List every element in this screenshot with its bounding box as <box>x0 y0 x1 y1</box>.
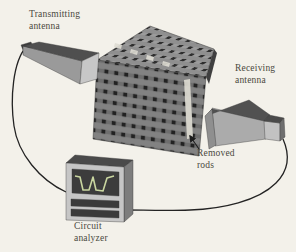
receiving-antenna-label: Receiving antenna <box>235 63 275 86</box>
woodpile-lattice-icon <box>93 26 217 156</box>
receiving-horn-antenna-icon <box>205 100 285 149</box>
removed-rods-label: Removed rods <box>197 148 235 171</box>
transmitting-horn-antenna-icon <box>21 42 99 84</box>
experiment-setup-figure: Transmitting antenna Receiving antenna R… <box>0 0 296 252</box>
transmitting-antenna-label-line1: Transmitting <box>29 9 80 21</box>
analyzer-right-face <box>124 160 133 222</box>
circuit-analyzer-label-line2: analyzer <box>74 233 108 245</box>
analyzer-screen <box>72 169 119 196</box>
removed-rods-label-line1: Removed <box>197 148 235 160</box>
circuit-analyzer-label: Circuit analyzer <box>74 221 108 244</box>
diagram-graphics <box>0 0 296 252</box>
transmitting-antenna-label: Transmitting antenna <box>29 9 80 32</box>
transmitting-antenna-label-line2: antenna <box>29 21 80 33</box>
circuit-analyzer-box-icon <box>66 155 133 222</box>
circuit-analyzer-label-line1: Circuit <box>74 221 108 233</box>
receiving-antenna-label-line2: antenna <box>235 75 275 87</box>
rx-waveguide-front <box>264 121 280 141</box>
removed-rods-label-line2: rods <box>197 160 235 172</box>
receiving-antenna-label-line1: Receiving <box>235 63 275 75</box>
